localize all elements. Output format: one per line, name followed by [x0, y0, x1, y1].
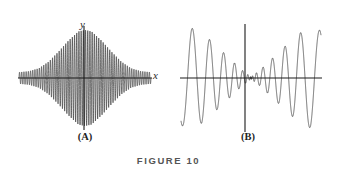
panel-a-y-axis-label: y — [80, 19, 85, 30]
panel-b: y x — [167, 0, 337, 140]
panel-a-label: (A) — [65, 132, 105, 143]
figure-container: y x y x (A) (B) FIGURE 10 — [0, 0, 337, 178]
panel-b-plot — [167, 0, 337, 140]
panel-a: y x — [0, 0, 170, 140]
panel-b-label: (B) — [228, 132, 268, 143]
figure-caption: FIGURE 10 — [0, 155, 337, 166]
panel-a-plot — [0, 0, 170, 140]
panel-a-x-axis-label: x — [153, 70, 158, 81]
